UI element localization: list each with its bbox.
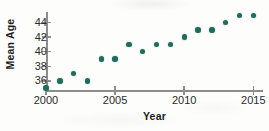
data-point-2004 [99,56,104,61]
y-tick-label-40: 40 [25,46,47,57]
y-tick-label-44: 44 [25,17,47,28]
data-point-2002 [71,71,76,76]
data-point-2003 [85,78,90,83]
x-axis-title: Year [46,110,263,122]
y-tick-label-42: 42 [25,32,47,43]
plot-area: 3638404244 2000200520102015 Mean Age Yea… [0,0,269,131]
data-point-2000 [43,85,48,90]
data-point-2010 [182,34,187,39]
data-point-2009 [168,42,173,47]
data-point-2005 [112,56,117,61]
x-tick-label-2015: 2015 [233,95,269,106]
data-point-2001 [57,78,62,83]
data-point-2008 [154,42,159,47]
x-tick-label-2010: 2010 [164,95,204,106]
data-point-2007 [140,49,145,54]
data-point-2012 [209,27,214,32]
data-point-2013 [223,20,228,25]
data-point-2006 [126,42,131,47]
x-axis-line [46,90,263,92]
y-tick-label-38: 38 [25,61,47,72]
y-axis-title: Mean Age [4,12,16,76]
x-tick-label-2005: 2005 [95,95,135,106]
data-point-2014 [237,13,242,18]
data-point-2015 [251,13,256,18]
mean-age-scatterplot-figure: 3638404244 2000200520102015 Mean Age Yea… [0,0,269,131]
x-tick-label-2000: 2000 [26,95,66,106]
data-point-2011 [195,27,200,32]
